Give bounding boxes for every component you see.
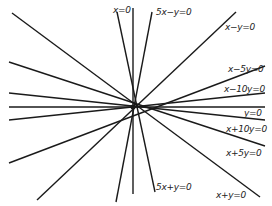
line-label: 5x−y=0 <box>156 7 191 17</box>
line-label: y=0 <box>244 108 262 118</box>
line-label: x−y=0 <box>225 22 255 32</box>
line-label: x+10y=0 <box>226 124 267 134</box>
line-label: x−10y=0 <box>224 84 265 94</box>
origin-point <box>131 105 136 110</box>
line-x+y=0 <box>12 13 260 197</box>
line-label: x=0 <box>113 5 131 15</box>
line-label: x+5y=0 <box>226 148 261 158</box>
line-label: x+y=0 <box>216 190 246 200</box>
line-label: 5x+y=0 <box>156 182 191 192</box>
line-label: x−5y=0 <box>228 64 263 74</box>
